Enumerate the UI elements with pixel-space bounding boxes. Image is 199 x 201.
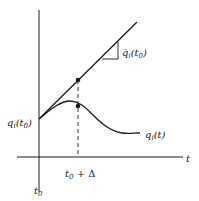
diagram-canvas: q̇i(t0) qi(t0) qi(t) t t0 + Δ t0 [0,0,199,201]
tangent-point [76,78,81,83]
tangent-line [39,22,137,119]
initial-value-label: qi(t0) [7,117,32,130]
x-axis-label: t [186,153,191,164]
slope-triangle [102,42,118,59]
curve-label: qi(t) [145,129,166,142]
trajectory-curve [39,101,140,133]
curve-point [76,104,81,109]
slope-label: q̇i(t0) [122,47,147,60]
x-tick-label-t0-plus-delta: t0 + Δ [65,168,95,181]
